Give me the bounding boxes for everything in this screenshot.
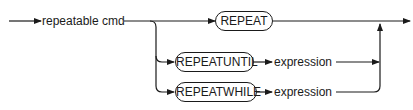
nonterminal-expression-until: expression xyxy=(274,55,332,69)
entry-label-repeatable-cmd: repeatable cmd xyxy=(42,14,125,28)
terminal-repeat: REPEAT xyxy=(215,11,273,31)
terminal-repeatuntil: REPEATUNTIL xyxy=(175,52,254,72)
terminal-repeatwhile: REPEATWHILE xyxy=(175,82,257,102)
nonterminal-expression-while: expression xyxy=(274,85,332,99)
